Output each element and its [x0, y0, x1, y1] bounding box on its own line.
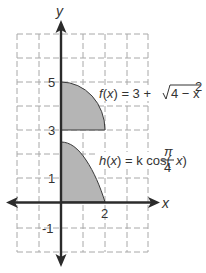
y-tick-neg1: -1 — [42, 221, 54, 236]
y-tick-1: 1 — [48, 171, 55, 186]
svg-text:2: 2 — [195, 79, 202, 94]
svg-text:4: 4 — [164, 160, 171, 175]
graph: y x 5 3 1 -1 2 f(x) = 3 + 4 − x 2 h(x) =… — [0, 0, 206, 273]
f-equation-label: f(x) = 3 + 4 − x 2 — [98, 79, 202, 101]
svg-text:h(x) = k cos(: h(x) = k cos( — [99, 153, 172, 168]
y-tick-3: 3 — [48, 123, 55, 138]
svg-text:π: π — [164, 144, 173, 159]
h-equation-label: h(x) = k cos( π 4 x) — [98, 144, 194, 175]
x-tick-2: 2 — [101, 206, 108, 221]
x-axis-label: x — [161, 195, 170, 211]
y-axis-label: y — [55, 3, 64, 19]
grid — [17, 34, 148, 252]
svg-text:f(x) = 3 +: f(x) = 3 + — [99, 86, 151, 101]
svg-text:x): x) — [175, 153, 187, 168]
y-tick-5: 5 — [48, 75, 55, 90]
